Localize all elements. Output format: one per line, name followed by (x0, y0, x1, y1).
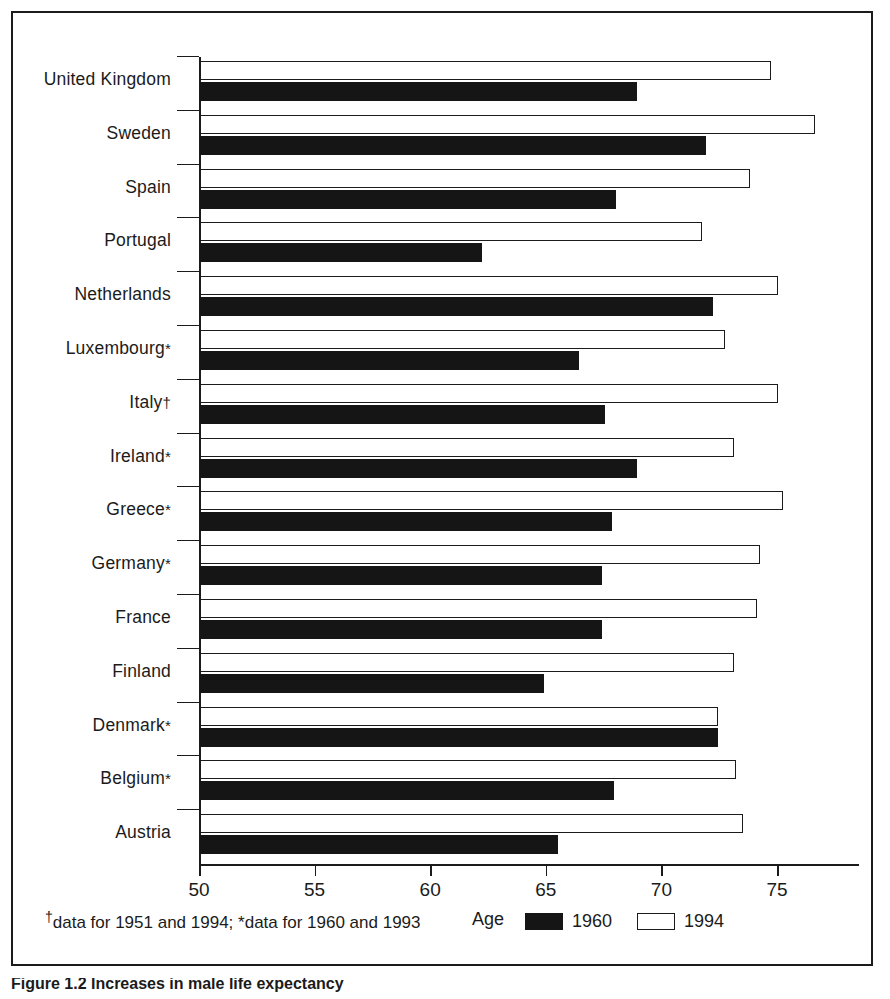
bar-1994 (200, 814, 743, 833)
bar-row: Sweden (199, 111, 777, 165)
bar-row: Spain (199, 165, 777, 219)
bar-1960 (200, 405, 605, 424)
bar-1960 (200, 459, 637, 478)
footnote-body: data for 1951 and 1994; *data for 1960 a… (53, 913, 421, 932)
category-tick (177, 56, 199, 57)
category-label: Austria (115, 822, 171, 843)
bar-1994 (200, 760, 736, 779)
bar-1960 (200, 512, 612, 531)
category-tick (177, 755, 199, 756)
bar-row: Finland (199, 649, 777, 703)
bar-row: Greece* (199, 487, 777, 541)
category-tick (177, 648, 199, 649)
bar-row: Italy† (199, 380, 777, 434)
bar-1960 (200, 781, 614, 800)
bar-1994 (200, 438, 734, 457)
category-label: Netherlands (74, 284, 171, 305)
legend: 1960 1994 (525, 911, 738, 932)
bar-1994 (200, 61, 771, 80)
legend-label-1994: 1994 (684, 911, 724, 932)
bar-1994 (200, 169, 750, 188)
legend-label-1960: 1960 (572, 911, 612, 932)
category-tick (177, 164, 199, 165)
category-label: Denmark* (93, 715, 171, 736)
figure-caption: Figure 1.2 Increases in male life expect… (11, 978, 871, 999)
category-label: France (115, 607, 171, 628)
category-label: Spain (125, 177, 171, 198)
bar-1960 (200, 620, 602, 639)
bar-1960 (200, 243, 482, 262)
category-tick (177, 486, 199, 487)
bar-row: United Kingdom (199, 57, 777, 111)
bar-row: Germany* (199, 541, 777, 595)
category-label: Portugal (104, 230, 171, 251)
category-label: Germany* (92, 553, 171, 574)
bar-row: Belgium* (199, 756, 777, 810)
bar-row: France (199, 595, 777, 649)
category-label: Italy† (129, 392, 171, 413)
category-tick (177, 540, 199, 541)
bar-1960 (200, 82, 637, 101)
bar-1960 (200, 835, 558, 854)
legend-swatch-1960-icon (525, 913, 563, 930)
plot-area: United KingdomSwedenSpainPortugalNetherl… (199, 57, 777, 864)
category-tick (177, 702, 199, 703)
bar-1960 (200, 190, 616, 209)
category-tick (177, 325, 199, 326)
legend-item-1994: 1994 (637, 911, 724, 932)
category-tick (177, 433, 199, 434)
bar-1960 (200, 566, 602, 585)
figure-frame: United KingdomSwedenSpainPortugalNetherl… (11, 11, 873, 966)
bar-row: Netherlands (199, 272, 777, 326)
x-axis-line (199, 864, 859, 866)
category-label: United Kingdom (44, 69, 171, 90)
bar-1960 (200, 674, 544, 693)
x-axis-tick (661, 864, 663, 876)
bar-1994 (200, 384, 778, 403)
category-label: Luxembourg* (66, 338, 171, 359)
bar-1960 (200, 297, 713, 316)
legend-item-1960: 1960 (525, 911, 612, 932)
bar-row: Ireland* (199, 434, 777, 488)
dagger-symbol: † (45, 909, 53, 925)
footnote-text: †data for 1951 and 1994; *data for 1960 … (45, 909, 421, 933)
category-label: Greece* (106, 499, 171, 520)
x-axis-tick (777, 864, 779, 876)
category-label: Belgium* (100, 768, 171, 789)
bar-row: Denmark* (199, 703, 777, 757)
bar-1994 (200, 222, 702, 241)
category-label: Finland (112, 661, 171, 682)
bar-row: Luxembourg* (199, 326, 777, 380)
x-axis-tick (315, 864, 317, 876)
legend-swatch-1994-icon (637, 913, 675, 930)
bar-1994 (200, 545, 760, 564)
category-label: Sweden (107, 123, 171, 144)
category-tick (177, 379, 199, 380)
figure-caption-text: Figure 1.2 Increases in male life expect… (11, 978, 344, 992)
bar-1994 (200, 707, 718, 726)
category-tick (177, 110, 199, 111)
bar-1960 (200, 136, 706, 155)
category-label: Ireland* (110, 446, 171, 467)
x-axis-tick (430, 864, 432, 876)
footer-strip: †data for 1951 and 1994; *data for 1960 … (13, 897, 875, 955)
category-tick (177, 217, 199, 218)
bar-1994 (200, 599, 757, 618)
bar-1960 (200, 728, 718, 747)
x-axis-tick (546, 864, 548, 876)
bar-1994 (200, 330, 725, 349)
category-tick (177, 271, 199, 272)
bar-1994 (200, 653, 734, 672)
bar-row: Portugal (199, 218, 777, 272)
category-tick (177, 809, 199, 810)
bar-row: Austria (199, 810, 777, 864)
bar-1994 (200, 491, 783, 510)
bar-1994 (200, 115, 815, 134)
bar-1994 (200, 276, 778, 295)
bar-1960 (200, 351, 579, 370)
category-tick (177, 594, 199, 595)
x-axis-tick (199, 864, 201, 876)
